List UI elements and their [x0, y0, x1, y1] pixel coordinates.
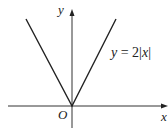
equation-mid: = 2|	[117, 45, 142, 60]
x-axis-label: x	[161, 110, 167, 123]
equation-end: |	[148, 45, 151, 60]
graph-canvas	[0, 0, 168, 128]
y-axis-label: y	[58, 3, 64, 16]
equation-label: y = 2|x|	[111, 46, 151, 60]
function-curve	[26, 19, 116, 106]
y-axis-arrow-icon	[70, 9, 75, 16]
x-axis-arrow-icon	[161, 104, 168, 109]
origin-label: O	[58, 108, 67, 121]
